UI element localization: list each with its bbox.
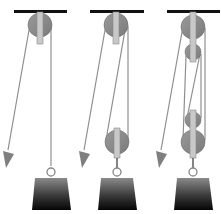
pull-rope [161,32,182,150]
weight-ring [113,168,121,176]
pulley-bracket [114,128,120,158]
rope-segment [106,30,125,140]
pulley-bracket [113,12,119,44]
rope-segment [183,56,186,140]
pulley-bracket [190,12,196,62]
pulley-bracket [37,12,43,44]
pull-rope [84,30,105,150]
arrow-head-icon [156,151,167,168]
weight [174,178,213,210]
pull-rope [8,30,29,150]
pulley-bracket [190,110,196,158]
arrow-head-icon [3,151,14,168]
pulley-diagram: Three pulley systems side by side with i… [0,0,221,214]
weight-ring [189,168,197,176]
panel-single-fixed-pulley [3,10,71,210]
weight-ring [47,168,55,176]
arrow-head-icon [79,151,90,168]
rope-segment [187,54,200,118]
weight [98,178,137,210]
panel-double-block-and-tackle [156,10,220,210]
panel-fixed-and-movable-pulley [79,10,144,210]
weight [32,178,71,210]
